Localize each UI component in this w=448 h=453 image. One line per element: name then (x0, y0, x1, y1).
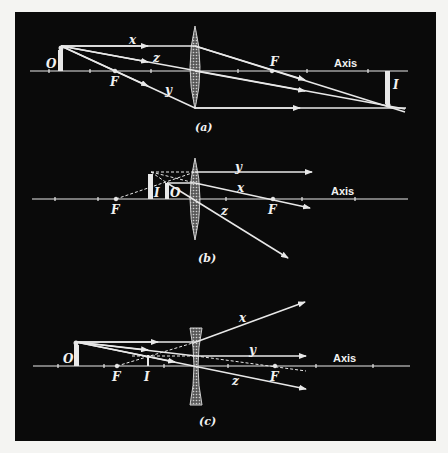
object-arrow (74, 345, 79, 366)
ray-label-y: y (164, 83, 173, 97)
focal-point-label-right: F (267, 203, 278, 217)
object-label: O (46, 57, 57, 71)
focal-point-label-left: F (110, 203, 121, 217)
focal-point-label-right: F (269, 370, 280, 384)
ray-label-z: z (220, 204, 229, 218)
focal-point-label-right: F (269, 55, 280, 69)
focal-point-label-left: F (109, 75, 120, 89)
ray-label-y: y (248, 343, 257, 357)
ray-label-x: x (128, 33, 137, 47)
ray-label-x: x (238, 311, 247, 325)
panel-caption-c: (c) (199, 415, 216, 428)
axis-label: Axis (333, 352, 356, 364)
ray-label-x: x (236, 181, 245, 195)
image-label: I (392, 78, 399, 92)
panel-caption-a: (a) (195, 121, 213, 134)
image-label: I (143, 370, 150, 384)
focal-point-label-left: F (111, 370, 122, 384)
image-arrow (148, 174, 153, 199)
object-label: O (170, 186, 181, 200)
object-label: O (63, 352, 74, 366)
axis-label: Axis (331, 185, 354, 197)
lens-ray-diagram-figure: O x z y F F Axis I (a) y x z I O F (0, 0, 448, 453)
axis-label: Axis (334, 57, 357, 69)
panel-caption-b: (b) (198, 252, 216, 265)
ray-label-z: z (152, 51, 161, 65)
ray-label-y: y (234, 160, 243, 174)
object-arrow (58, 50, 63, 71)
object-arrow (165, 183, 169, 199)
ray-label-z: z (231, 374, 240, 388)
image-label: I (153, 186, 160, 200)
image-arrow (385, 71, 390, 104)
